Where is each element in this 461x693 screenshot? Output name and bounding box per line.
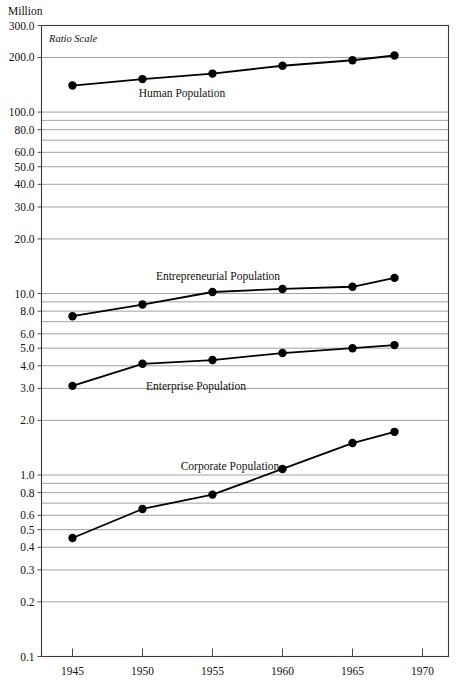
data-point xyxy=(208,69,216,77)
y-tick-label: 80.0 xyxy=(14,124,34,136)
series-corporate-population xyxy=(68,428,398,543)
y-tick-label: 0.3 xyxy=(20,564,35,576)
y-tick-label: 2.0 xyxy=(20,414,35,426)
data-point xyxy=(390,428,398,436)
y-tick-label: 8.0 xyxy=(20,305,35,317)
series-label-entrepreneurial: Entrepreneurial Population xyxy=(156,270,280,283)
ratio-scale-annotation: Ratio Scale xyxy=(48,33,97,44)
y-tick-label: 20.0 xyxy=(14,233,34,245)
series-line-corporate-population xyxy=(73,432,395,538)
x-tick-label: 1950 xyxy=(131,665,154,677)
gridlines-group xyxy=(42,57,449,601)
data-point xyxy=(348,283,356,291)
data-point xyxy=(68,81,76,89)
data-point xyxy=(348,344,356,352)
data-point xyxy=(208,288,216,296)
y-tick-label: 30.0 xyxy=(14,201,34,213)
y-tick-label: 4.0 xyxy=(20,360,35,372)
y-tick-label: 0.4 xyxy=(20,541,35,553)
data-point xyxy=(138,360,146,368)
y-tick-label: 5.0 xyxy=(20,342,35,354)
y-tick-label: 40.0 xyxy=(14,178,34,190)
data-point xyxy=(278,349,286,357)
y-axis-tick-labels: 300.0200.0100.080.060.050.040.030.020.01… xyxy=(9,20,35,663)
data-point xyxy=(278,62,286,70)
data-point xyxy=(68,382,76,390)
y-tick-label: 3.0 xyxy=(20,382,35,394)
y-tick-label: 0.5 xyxy=(20,524,35,536)
data-point xyxy=(390,274,398,282)
x-tick-label: 1960 xyxy=(271,665,294,677)
data-point xyxy=(208,356,216,364)
y-tick-label: 0.8 xyxy=(20,487,35,499)
x-tick-label: 1970 xyxy=(411,665,434,677)
data-point xyxy=(68,534,76,542)
data-point xyxy=(278,465,286,473)
y-tick-label: 0.2 xyxy=(20,596,35,608)
y-tick-label: 6.0 xyxy=(20,328,35,340)
series-label-corporate: Corporate Population xyxy=(181,460,280,473)
data-point xyxy=(348,56,356,64)
y-tick-label: 100.0 xyxy=(9,106,35,118)
y-tick-label: 0.6 xyxy=(20,509,35,521)
series-label-enterprise: Enterprise Population xyxy=(146,380,246,393)
population-ratio-scale-chart: 300.0200.0100.080.060.050.040.030.020.01… xyxy=(0,0,461,693)
data-point xyxy=(390,341,398,349)
y-axis-ticks xyxy=(38,26,42,657)
series-line-human-population xyxy=(73,56,395,86)
data-point xyxy=(390,51,398,59)
data-point xyxy=(138,75,146,83)
data-point xyxy=(208,490,216,498)
series-line-entrepreneurial-population xyxy=(73,278,395,316)
data-point xyxy=(138,300,146,308)
x-tick-label: 1955 xyxy=(201,665,224,677)
x-axis-tick-labels: 194519501955196019651970 xyxy=(61,665,434,677)
data-point xyxy=(278,285,286,293)
y-tick-label: 1.0 xyxy=(20,469,35,481)
y-axis-unit-label: Million xyxy=(8,5,43,17)
y-tick-label: 60.0 xyxy=(14,146,34,158)
y-tick-label: 300.0 xyxy=(9,20,35,32)
y-tick-label: 0.1 xyxy=(20,651,35,663)
y-tick-label: 200.0 xyxy=(9,51,35,63)
series-label-human: Human Population xyxy=(139,87,226,100)
x-axis-ticks xyxy=(73,649,423,657)
y-tick-label: 10.0 xyxy=(14,288,34,300)
x-tick-label: 1965 xyxy=(341,665,364,677)
data-point xyxy=(68,312,76,320)
data-point xyxy=(138,505,146,513)
y-tick-label: 50.0 xyxy=(14,161,34,173)
chart-container: 300.0200.0100.080.060.050.040.030.020.01… xyxy=(0,0,461,693)
data-point xyxy=(348,439,356,447)
x-tick-label: 1945 xyxy=(61,665,84,677)
